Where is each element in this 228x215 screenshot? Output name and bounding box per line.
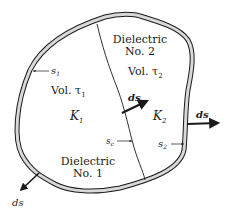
volume-tau1-label: Vol. τ1 xyxy=(50,84,86,99)
sc-label: sc xyxy=(106,136,115,147)
s2-label: s2 xyxy=(158,138,167,150)
dielectric-1-number: No. 1 xyxy=(73,167,103,180)
right-ds-arrow xyxy=(187,123,218,124)
k2-label: K2 xyxy=(152,109,167,125)
right-ds-label: ds xyxy=(196,109,209,120)
interface-ds-label: ds xyxy=(128,92,141,103)
s1-label: s1 xyxy=(51,65,60,77)
dielectric-2-number: No. 2 xyxy=(125,45,155,58)
bottom-left-ds-label: ds xyxy=(12,197,24,208)
dielectric-regions-diagram: Dielectric No. 2 Vol. τ2 Vol. τ1 Dielect… xyxy=(0,0,228,215)
volume-tau2-label: Vol. τ2 xyxy=(127,65,163,80)
bottom-left-ds-arrow xyxy=(21,173,39,190)
k1-label: K1 xyxy=(69,109,83,125)
